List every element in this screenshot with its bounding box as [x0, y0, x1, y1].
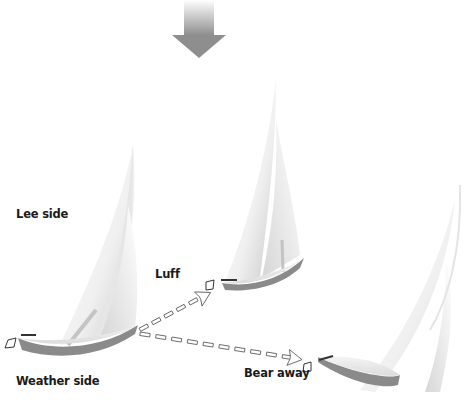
initial-boat	[5, 145, 138, 356]
luff-boat	[206, 80, 304, 290]
weather-side-label: Weather side	[16, 374, 99, 388]
wind-direction-arrow-icon	[172, 0, 226, 58]
bear-away-arrow	[139, 326, 303, 367]
bear-away-boat	[303, 185, 460, 392]
luff-arrow	[136, 285, 214, 337]
diagram-canvas	[0, 0, 471, 400]
bear-away-label: Bear away	[244, 366, 310, 380]
lee-side-label: Lee side	[16, 207, 68, 221]
luff-label: Luff	[155, 267, 180, 281]
